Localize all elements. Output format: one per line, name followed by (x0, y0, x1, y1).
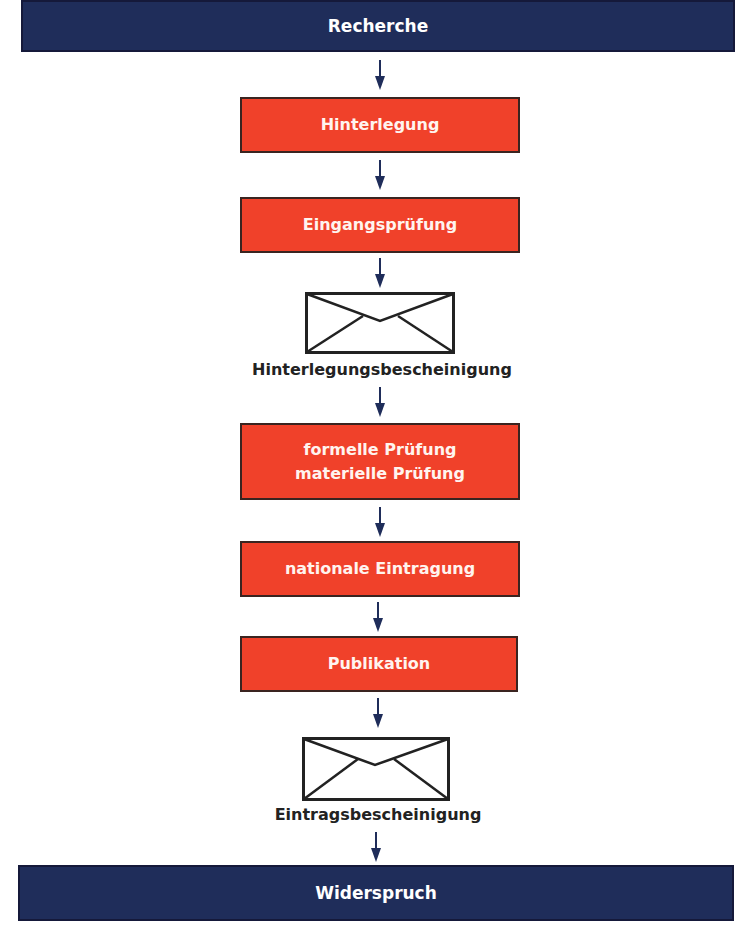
step-nationale-eintragung: nationale Eintragung (240, 541, 520, 597)
envelope-label: Hinterlegungsbescheinigung (182, 360, 582, 379)
step-label: nationale Eintragung (285, 557, 475, 581)
arrow-down-icon (372, 698, 384, 728)
start-recherche: Recherche (21, 0, 735, 52)
arrow-down-icon (374, 387, 386, 417)
arrow-down-icon (370, 832, 382, 862)
arrow-down-icon (374, 160, 386, 190)
step-label: Hinterlegung (321, 113, 440, 137)
step-eingangspruefung: Eingangsprüfung (240, 197, 520, 253)
step-publikation: Publikation (240, 636, 518, 692)
end-label: Widerspruch (315, 883, 437, 903)
envelope-label: Eintragsbescheinigung (178, 805, 578, 824)
start-label: Recherche (328, 16, 428, 36)
step-pruefung: formelle Prüfung materielle Prüfung (240, 423, 520, 500)
step-label-line1: formelle Prüfung (304, 438, 457, 462)
step-label: Eingangsprüfung (303, 213, 457, 237)
envelope-icon (302, 737, 450, 801)
arrow-down-icon (374, 258, 386, 288)
envelope-icon (305, 292, 455, 354)
arrow-down-icon (374, 60, 386, 90)
step-label-line2: materielle Prüfung (295, 462, 465, 486)
end-widerspruch: Widerspruch (18, 865, 734, 921)
arrow-down-icon (374, 507, 386, 537)
step-label: Publikation (328, 652, 431, 676)
arrow-down-icon (372, 602, 384, 632)
step-hinterlegung: Hinterlegung (240, 97, 520, 153)
